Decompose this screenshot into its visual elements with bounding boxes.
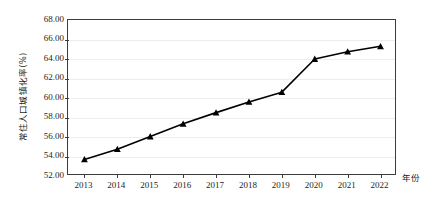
plot-area — [67, 19, 396, 175]
x-tick-mark — [249, 174, 250, 178]
x-tick-label: 2020 — [305, 180, 323, 190]
x-tick-mark — [183, 174, 184, 178]
x-tick-mark — [84, 174, 85, 178]
y-tick-mark — [65, 59, 69, 60]
x-tick-label: 2022 — [371, 180, 389, 190]
x-tick-mark — [348, 174, 349, 178]
y-tick-mark — [65, 118, 69, 119]
y-tick-mark — [65, 157, 69, 158]
x-axis-title: 年份 — [402, 171, 420, 183]
y-axis-title-text: 常住人口城镇化率(%) — [16, 53, 28, 142]
y-tick-label: 56.00 — [30, 132, 64, 141]
line-series — [68, 20, 397, 176]
y-tick-label: 68.00 — [30, 15, 64, 24]
x-axis-tick-labels: 2013201420152016201720182019202020212022 — [67, 180, 396, 196]
chart-figure: 常住人口城镇化率(%) 52.0054.0056.0058.0060.0062.… — [0, 0, 434, 207]
x-tick-label: 2021 — [338, 180, 356, 190]
x-tick-label: 2014 — [107, 180, 125, 190]
x-tick-mark — [282, 174, 283, 178]
x-tick-label: 2015 — [140, 180, 158, 190]
y-tick-mark — [65, 40, 69, 41]
series-polyline — [84, 46, 380, 159]
x-tick-label: 2017 — [206, 180, 224, 190]
series-markers — [81, 43, 384, 162]
y-tick-mark — [65, 137, 69, 138]
y-tick-label: 52.00 — [30, 171, 64, 180]
y-tick-mark — [65, 79, 69, 80]
x-tick-mark — [117, 174, 118, 178]
x-tick-mark — [315, 174, 316, 178]
x-tick-label: 2016 — [173, 180, 191, 190]
x-tick-mark — [381, 174, 382, 178]
x-tick-label: 2019 — [272, 180, 290, 190]
y-tick-label: 62.00 — [30, 73, 64, 82]
y-tick-label: 64.00 — [30, 54, 64, 63]
y-tick-label: 58.00 — [30, 112, 64, 121]
x-tick-mark — [216, 174, 217, 178]
x-tick-label: 2013 — [74, 180, 92, 190]
y-tick-label: 66.00 — [30, 34, 64, 43]
x-tick-label: 2018 — [239, 180, 257, 190]
y-tick-label: 54.00 — [30, 151, 64, 160]
y-axis-tick-labels: 52.0054.0056.0058.0060.0062.0064.0066.00… — [30, 0, 64, 207]
y-tick-label: 60.00 — [30, 93, 64, 102]
x-tick-mark — [150, 174, 151, 178]
y-axis-title: 常住人口城镇化率(%) — [14, 19, 30, 175]
y-tick-mark — [65, 98, 69, 99]
